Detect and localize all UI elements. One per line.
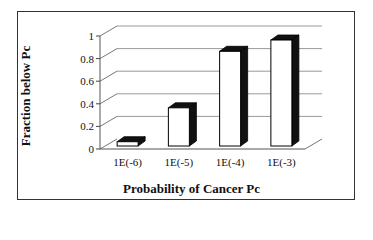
x-tick-label: 1E(-4): [216, 156, 245, 169]
y-axis-label: Fraction below Pc: [18, 46, 34, 146]
bar-side: [189, 103, 196, 146]
y-tick-label: 1: [89, 30, 95, 42]
grid-depth-connector: [100, 116, 117, 126]
grid-depth-connector: [100, 139, 117, 149]
bar-1E(-4): [220, 51, 241, 146]
x-axis-label: Probability of Cancer Pc: [0, 181, 373, 197]
bar-1E(-3): [271, 40, 292, 146]
y-tick-label: 0.8: [80, 53, 94, 65]
y-tick-label: 0: [89, 143, 95, 155]
y-tick-label: 0.4: [80, 98, 94, 110]
y-tick-label: 0.6: [80, 75, 94, 87]
y-tick-label: 0.2: [80, 120, 94, 132]
bar-side: [241, 46, 248, 146]
grid-depth-connector: [100, 49, 117, 59]
x-tick-label: 1E(-6): [113, 156, 142, 169]
bar-1E(-6): [117, 142, 138, 146]
x-tick-label: 1E(-3): [267, 156, 296, 169]
floor-depth-line: [305, 139, 322, 149]
grid-depth-connector: [100, 26, 117, 36]
bar-1E(-5): [168, 108, 189, 146]
grid-depth-connector: [100, 71, 117, 81]
x-tick-label: 1E(-5): [165, 156, 194, 169]
grid-depth-connector: [100, 94, 117, 104]
bar-side: [292, 35, 299, 146]
